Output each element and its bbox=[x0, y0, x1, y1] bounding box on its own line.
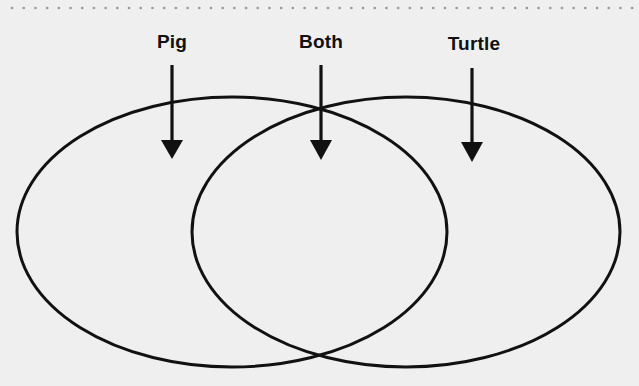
pig-circle[interactable] bbox=[17, 97, 447, 367]
venn-diagram: Pig Both Turtle bbox=[0, 0, 639, 386]
both-label: Both bbox=[299, 31, 343, 53]
turtle-circle[interactable] bbox=[192, 97, 620, 367]
pig-arrow-icon bbox=[161, 65, 183, 159]
pig-label: Pig bbox=[157, 31, 187, 53]
turtle-arrow-icon bbox=[461, 68, 483, 162]
turtle-label: Turtle bbox=[448, 33, 501, 55]
venn-graphic bbox=[0, 0, 639, 386]
